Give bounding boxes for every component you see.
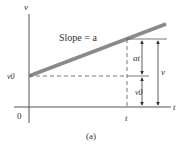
at-label: at	[133, 53, 141, 63]
v0-dimension-label: v0	[135, 88, 143, 97]
figure-caption: (a)	[86, 131, 96, 141]
x-axis-label: t	[173, 102, 176, 112]
origin-label: 0	[17, 111, 22, 121]
v-dimension-label: v	[161, 67, 165, 77]
y-axis-label: v	[24, 2, 28, 12]
t-point-label: t	[125, 113, 128, 123]
slope-line	[29, 24, 166, 76]
velocity-time-diagram: v t 0 Slope = a v0 t at v0 v (a)	[0, 0, 185, 147]
slope-label: Slope = a	[59, 32, 97, 43]
v0-axis-label: v0	[7, 72, 15, 81]
